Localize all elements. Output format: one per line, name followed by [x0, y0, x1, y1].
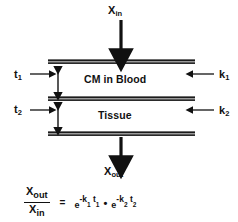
input-flux-label-xin: Xin	[108, 5, 122, 16]
boundary-bar-top	[48, 59, 195, 64]
equation-term-blood-exponent: -k1 t1	[79, 194, 99, 204]
attenuation-equation: Xout Xin = e-k1 t1 • e-k2 t2	[24, 186, 136, 219]
equation-denominator: Xin	[27, 203, 46, 219]
output-flux-label-xout: Xout	[104, 166, 123, 177]
boundary-bar-bottom	[48, 131, 195, 136]
thickness-label-t2: t2	[14, 104, 22, 115]
equation-numerator: Xout	[24, 186, 50, 203]
compartment-label-tissue: Tissue	[98, 109, 132, 121]
boundary-bar-middle	[48, 96, 195, 101]
attenuation-model-diagram: Xin CM in Blood Tissue t1 t2 k1 k2 Xout	[0, 0, 238, 222]
coefficient-label-k1: k1	[219, 69, 229, 80]
thickness-label-t1: t1	[14, 69, 22, 80]
equation-term-tissue-exponent: -k2 t2	[116, 194, 136, 204]
equation-term-tissue: e-k2 t2	[111, 195, 136, 209]
compartment-label-blood: CM in Blood	[84, 73, 146, 85]
equation-term-blood: e-k1 t1	[74, 195, 99, 209]
equation-fraction: Xout Xin	[24, 186, 50, 219]
coefficient-label-k2: k2	[219, 105, 229, 116]
equation-equals-sign: =	[60, 197, 66, 208]
equation-multiplication-dot: •	[103, 197, 107, 209]
